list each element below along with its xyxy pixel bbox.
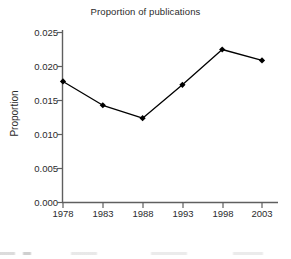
plot-area: [0, 0, 291, 259]
data-point: [259, 57, 265, 63]
data-point: [60, 78, 66, 84]
chart-figure: Proportion of publications Proportion 0.…: [0, 0, 291, 259]
data-line-series: [63, 50, 262, 119]
page-scan-artifact: [0, 252, 291, 255]
x-axis-ticks: [63, 203, 262, 209]
data-point: [100, 102, 106, 108]
y-axis-ticks: [57, 33, 63, 203]
data-point-markers: [60, 46, 265, 121]
